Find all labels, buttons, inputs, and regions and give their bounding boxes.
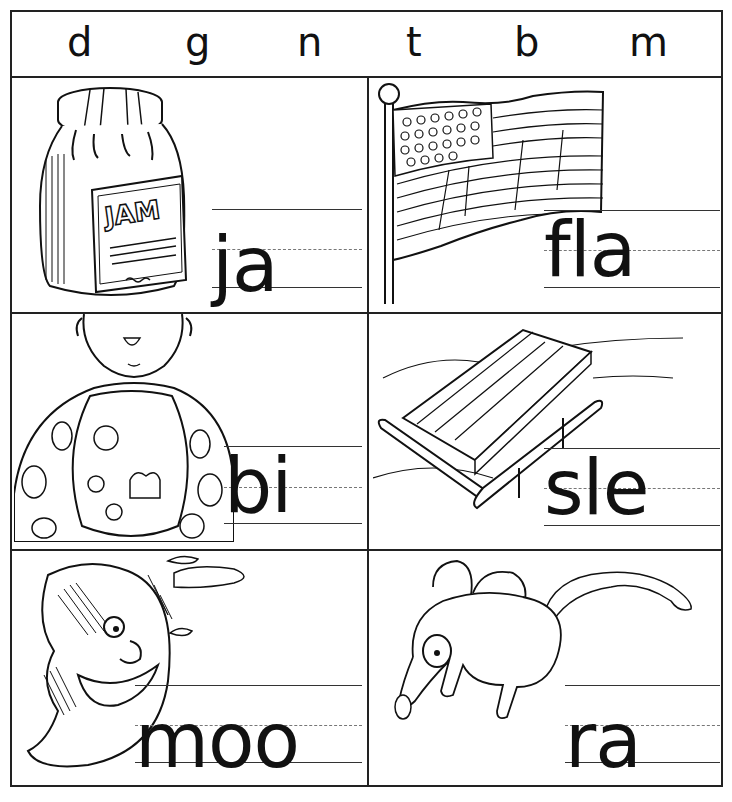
letter-bank-letter: g (185, 16, 210, 68)
writing-line-top (135, 685, 362, 686)
jam-jar-illustration: JAM (30, 80, 190, 304)
letter-bank-letter: m (629, 16, 668, 68)
writing-line-top (565, 685, 720, 686)
letter-bank-letter: n (297, 16, 322, 68)
cell-moon: moo (12, 551, 367, 787)
cell-flag: fla (369, 78, 723, 312)
word-stem: ja (212, 227, 278, 303)
word-stem: moo (135, 703, 299, 779)
word-stem: ra (565, 703, 641, 779)
cell-jam: JAM ja (12, 78, 367, 312)
letter-bank: d g n t b m (12, 12, 721, 78)
cell-bib: bi (12, 314, 367, 549)
cell-rat: ra (369, 551, 723, 787)
word-stem: bi (224, 448, 291, 524)
word-stem: fla (544, 212, 635, 288)
letter-bank-letter: b (514, 16, 539, 68)
child-with-bib-illustration (14, 314, 234, 542)
writing-lines: fla (544, 210, 720, 290)
letter-bank-letter: t (406, 16, 422, 68)
writing-line-top (212, 209, 362, 210)
writing-lines: sle (544, 448, 720, 528)
cell-sled: sle (369, 314, 723, 549)
writing-lines: ra (565, 685, 720, 765)
writing-lines: moo (135, 685, 362, 765)
writing-lines: bi (224, 446, 362, 526)
word-stem: sle (544, 450, 648, 526)
letter-bank-letter: d (67, 16, 92, 68)
worksheet-frame: d g n t b m JAM (10, 10, 723, 787)
writing-lines: ja (212, 209, 362, 289)
